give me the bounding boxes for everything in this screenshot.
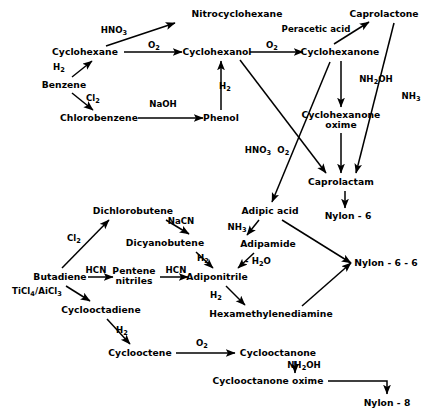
arrow-benzene-to-cyclohexane <box>72 61 92 77</box>
arrow-adipic-acid-to-adipamide <box>247 220 259 235</box>
node-cyclooctanone-oxime: Cyclooctanone oxime <box>213 376 324 386</box>
reagent-cl2-butadiene: Cl2 <box>67 234 81 245</box>
node-cyclooctanone: Cyclooctanone <box>240 348 316 358</box>
reagent-h2-adiponitrile: H2 <box>210 291 222 302</box>
reagent-hno3-o2-adipic: HNO3 O2 <box>245 146 290 157</box>
node-phenol: Phenol <box>203 113 239 123</box>
node-cyclohexanone: Cyclohexanone <box>301 47 380 57</box>
reagent-nh3-caprolactone: NH3 <box>401 92 420 103</box>
reagent-o2-cyclooctene: O2 <box>196 339 208 350</box>
node-dicyanobutene: Dicyanobutene <box>126 238 204 248</box>
reagent-h2-benzene: H2 <box>53 63 65 74</box>
node-cyclohexanol: Cyclohexanol <box>182 47 251 57</box>
arrow-adiponitrile-to-hmda <box>226 286 245 305</box>
node-cyclohexanone-oxime: Cyclohexanone oxime <box>302 110 381 130</box>
reagent-hno3-nitration: HNO3 <box>101 26 127 37</box>
node-caprolactone: Caprolactone <box>349 9 418 19</box>
reaction-scheme-diagram: Nitrocyclohexane Caprolactone Peracetic … <box>0 0 433 417</box>
node-adipamide: Adipamide <box>240 239 296 249</box>
reagent-ticl4-aicl3: TiCl4/AiCl3 <box>12 287 62 298</box>
reagent-h2-dicyanobutene: H2 <box>197 254 209 265</box>
arrow-cyclooctanone-oxime-to-nylon8 <box>328 381 387 394</box>
arrow-butadiene-to-cyclooctadiene <box>66 286 90 301</box>
node-cyclohexane: Cyclohexane <box>52 47 118 57</box>
node-nitrocyclohexane: Nitrocyclohexane <box>192 9 283 19</box>
reagent-naoh: NaOH <box>149 100 177 110</box>
node-cyclooctadiene: Cyclooctadiene <box>61 305 140 315</box>
node-nylon-8: Nylon - 8 <box>364 398 411 408</box>
reagent-minus-water: - H2O <box>245 257 271 268</box>
node-nylon-6-6: Nylon - 6 - 6 <box>354 258 418 268</box>
reagent-nacn: NaCN <box>168 217 195 227</box>
label-peracetic-acid: Peracetic acid <box>282 25 351 35</box>
reagent-h2-cyclooctadiene: H2 <box>116 326 128 337</box>
reagent-hcn-second: HCN <box>166 266 187 276</box>
node-adipic-acid: Adipic acid <box>241 206 298 216</box>
node-butadiene: Butadiene <box>33 272 86 282</box>
reagent-nh3-adipamide: NH3 <box>227 223 246 234</box>
reagent-cl2-benzene: Cl2 <box>86 94 100 105</box>
arrow-hmda-to-nylon66 <box>302 263 351 306</box>
node-dichlorobutene: Dichlorobutene <box>93 206 173 216</box>
reagent-h2-phenol: H2 <box>219 82 231 93</box>
reagent-hcn-first: HCN <box>86 266 107 276</box>
reagent-o2-cyclohexane: O2 <box>148 41 160 52</box>
node-adiponitrile: Adiponitrile <box>186 272 247 282</box>
node-chlorobenzene: Chlorobenzene <box>60 113 138 123</box>
reagent-nh2oh-cyclohexanone: NH2OH <box>359 75 393 86</box>
node-benzene: Benzene <box>42 80 86 90</box>
reagent-o2-cyclohexanol: O2 <box>266 41 278 52</box>
node-pentene-nitriles: Pentene nitriles <box>112 266 155 286</box>
node-caprolactam: Caprolactam <box>308 177 374 187</box>
reagent-nh2oh-cyclooctanone: NH2OH <box>287 361 321 372</box>
node-nylon-6: Nylon - 6 <box>325 211 372 221</box>
node-cyclooctene: Cyclooctene <box>108 348 171 358</box>
node-hexamethylenediamine: Hexamethylenediamine <box>209 309 332 319</box>
